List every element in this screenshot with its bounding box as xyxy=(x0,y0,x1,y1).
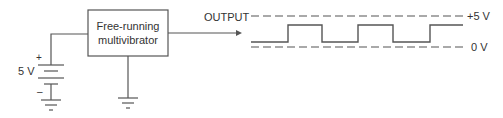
low-level-label: 0 V xyxy=(471,42,488,53)
supply-wire xyxy=(51,34,88,65)
square-wave xyxy=(251,25,463,42)
ground-icon xyxy=(41,100,61,110)
output-label: OUTPUT xyxy=(204,12,249,23)
block-label-line1: Free-running xyxy=(97,19,160,33)
ground-icon xyxy=(118,98,138,108)
multivibrator-label: Free-running multivibrator xyxy=(88,10,168,56)
battery-plus-sign: + xyxy=(36,53,42,63)
block-label-line2: multivibrator xyxy=(98,33,158,47)
battery-voltage-label: 5 V xyxy=(18,66,35,77)
high-level-label: +5 V xyxy=(467,11,490,22)
battery-minus-sign: – xyxy=(37,87,43,97)
circuit-diagram xyxy=(0,0,503,118)
arrow-icon xyxy=(236,30,242,36)
